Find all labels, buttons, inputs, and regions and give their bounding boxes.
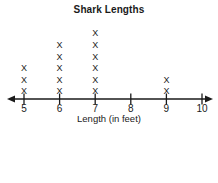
x-mark: X [92, 63, 98, 75]
x-mark: X [92, 86, 98, 98]
plot-area: XXX XXXXX XXXXXX XX 5 6 7 8 9 10 Length … [0, 0, 218, 135]
x-mark: X [92, 52, 98, 64]
axis-arrow-left [7, 96, 15, 103]
x-mark: X [21, 86, 27, 98]
x-mark: X [21, 63, 27, 75]
x-mark: X [57, 40, 63, 52]
mark-stack-5: XXX [15, 63, 33, 98]
mark-stack-9: XX [157, 75, 175, 98]
x-mark: X [163, 75, 169, 87]
x-mark: X [92, 40, 98, 52]
x-mark: X [92, 75, 98, 87]
x-mark: X [92, 28, 98, 40]
x-mark: X [21, 75, 27, 87]
x-mark: X [57, 75, 63, 87]
x-mark: X [57, 86, 63, 98]
axis-arrow-right [205, 96, 213, 103]
x-mark: X [57, 52, 63, 64]
x-mark: X [57, 63, 63, 75]
dot-plot-figure: Shark Lengths XXX XXXXX XXXXXX XX 5 6 7 [0, 0, 218, 183]
mark-stack-6: XXXXX [51, 40, 69, 98]
mark-stack-7: XXXXXX [86, 28, 104, 98]
x-mark: X [163, 86, 169, 98]
x-axis-label: Length (in feet) [0, 113, 218, 124]
